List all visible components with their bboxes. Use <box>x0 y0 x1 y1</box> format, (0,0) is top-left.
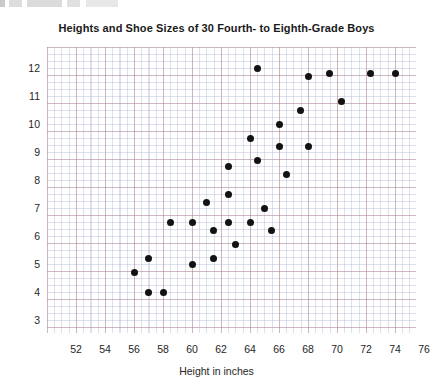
x-tick-label: 62 <box>206 344 236 355</box>
data-point <box>268 227 275 234</box>
data-point <box>297 107 304 114</box>
data-point <box>247 219 254 226</box>
data-point <box>305 73 312 80</box>
data-point <box>145 255 152 262</box>
y-tick-label: 11 <box>12 91 40 102</box>
data-point <box>225 219 232 226</box>
x-axis-label: Height in inches <box>0 365 433 377</box>
data-point <box>254 65 261 72</box>
data-point <box>203 199 210 206</box>
data-point <box>326 70 333 77</box>
y-tick-label: 6 <box>12 231 40 242</box>
y-tick-label: 3 <box>12 315 40 326</box>
x-tick-label: 60 <box>177 344 207 355</box>
x-tick-label: 72 <box>351 344 381 355</box>
data-point <box>225 163 232 170</box>
data-point <box>367 70 374 77</box>
y-tick-label: 12 <box>12 63 40 74</box>
y-tick-label: 10 <box>12 119 40 130</box>
data-point <box>210 227 217 234</box>
scatter-chart-figure: Heights and Shoe Sizes of 30 Fourth- to … <box>0 0 433 389</box>
y-tick-label: 8 <box>12 175 40 186</box>
data-point <box>283 171 290 178</box>
data-point <box>167 219 174 226</box>
x-tick-label: 70 <box>322 344 352 355</box>
y-tick-label: 4 <box>12 287 40 298</box>
plot-area <box>47 47 416 333</box>
x-tick-label: 66 <box>264 344 294 355</box>
x-tick-label: 54 <box>90 344 120 355</box>
x-tick-label: 68 <box>293 344 323 355</box>
x-tick-label: 74 <box>380 344 410 355</box>
x-tick-label: 58 <box>148 344 178 355</box>
data-point <box>145 289 152 296</box>
data-point <box>254 157 261 164</box>
y-tick-label: 7 <box>12 203 40 214</box>
data-point <box>276 121 283 128</box>
data-point <box>189 219 196 226</box>
data-point <box>189 261 196 268</box>
y-tick-label: 5 <box>12 259 40 270</box>
data-point <box>210 255 217 262</box>
data-point <box>261 205 268 212</box>
data-point <box>131 269 138 276</box>
y-tick-label: 9 <box>12 147 40 158</box>
data-point <box>338 98 345 105</box>
data-point <box>392 70 399 77</box>
x-tick-label: 76 <box>409 344 433 355</box>
data-point <box>225 191 232 198</box>
data-point <box>305 143 312 150</box>
x-tick-label: 64 <box>235 344 265 355</box>
x-tick-label: 52 <box>61 344 91 355</box>
data-point <box>276 143 283 150</box>
data-point <box>247 135 254 142</box>
x-tick-label: 56 <box>119 344 149 355</box>
data-point <box>232 241 239 248</box>
chart-title: Heights and Shoe Sizes of 30 Fourth- to … <box>0 22 433 34</box>
data-point <box>160 289 167 296</box>
